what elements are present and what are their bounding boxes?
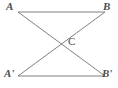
geometry-figure: A B A' B' C — [0, 0, 118, 88]
figure-canvas — [0, 0, 118, 88]
vertex-label-b-prime: B' — [102, 68, 112, 79]
vertex-label-a: A — [6, 1, 13, 12]
vertex-label-b: B — [103, 1, 110, 12]
vertex-label-a-prime: A' — [4, 68, 14, 79]
vertex-label-c: C — [68, 36, 75, 47]
